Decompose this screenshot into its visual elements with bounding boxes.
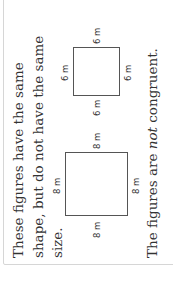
small-square [73,47,120,96]
conclusion-emphasis: not [144,127,160,149]
text-line-2: shape, but do not have the same [30,36,46,258]
small-square-bottom-label: 6 m [123,65,133,81]
large-square-right-label: 8 m [92,133,102,149]
large-square [65,152,128,216]
small-square-top-label: 6 m [60,65,70,81]
conclusion-suffix: congruent. [144,48,160,127]
large-square-bottom-label: 8 m [131,178,141,194]
conclusion-text: The figures are not congruent. [144,48,160,258]
small-square-left-label: 6 m [92,100,102,116]
conclusion-prefix: The figures are [144,149,160,258]
rotated-page: These figures have the same shape, but d… [0,0,173,290]
large-square-left-label: 8 m [92,222,102,238]
text-line-3: size. [49,227,65,258]
text-line-1: These figures have the same [10,62,26,258]
small-square-right-label: 6 m [92,28,102,44]
large-square-top-label: 8 m [52,178,62,194]
